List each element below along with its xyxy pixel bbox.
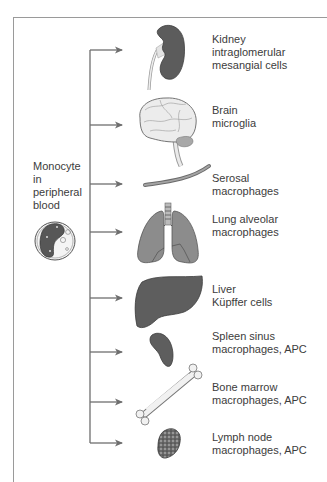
label-line: microglia	[212, 117, 256, 130]
label-line: Bone marrow	[212, 381, 307, 394]
label-line: Liver	[212, 283, 272, 296]
label-lymph-node: Lymph node macrophages, APC	[212, 431, 307, 457]
monocyte-cell-icon	[35, 222, 75, 260]
source-line: blood	[33, 199, 82, 212]
label-line: Lymph node	[212, 431, 307, 444]
branch-connector	[90, 50, 122, 443]
bone-icon	[136, 364, 202, 425]
label-line: Kidney	[212, 33, 287, 46]
label-bone-marrow: Bone marrow macrophages, APC	[212, 381, 307, 407]
label-lung: Lung alveolar macrophages	[212, 213, 279, 239]
source-line: peripheral	[33, 186, 82, 199]
label-line: macrophages, APC	[212, 343, 307, 356]
label-line: Lung alveolar	[212, 213, 279, 226]
liver-icon	[135, 276, 202, 328]
source-line: Monocyte	[33, 160, 82, 173]
label-line: Serosal	[212, 172, 279, 185]
label-line: macrophages, APC	[212, 444, 307, 457]
label-liver: Liver Küpffer cells	[212, 283, 272, 309]
kidney-icon	[149, 25, 185, 90]
label-line: mesangial cells	[212, 59, 287, 72]
lungs-icon	[138, 203, 199, 263]
label-line: macrophages, APC	[212, 394, 307, 407]
source-monocyte-label: Monocyte in peripheral blood	[33, 160, 82, 212]
diagram-canvas	[0, 0, 327, 482]
label-line: Brain	[212, 104, 256, 117]
label-line: macrophages	[212, 185, 279, 198]
spleen-icon	[150, 333, 173, 366]
label-kidney: Kidney intraglomerular mesangial cells	[212, 33, 287, 72]
label-line: Spleen sinus	[212, 330, 307, 343]
label-brain: Brain microglia	[212, 104, 256, 130]
label-line: Küpffer cells	[212, 296, 272, 309]
label-serosa: Serosal macrophages	[212, 172, 279, 198]
source-line: in	[33, 173, 82, 186]
label-line: intraglomerular	[212, 46, 287, 59]
label-line: macrophages	[212, 226, 279, 239]
lymph-node-icon	[158, 429, 181, 458]
brain-icon	[140, 98, 196, 166]
label-spleen: Spleen sinus macrophages, APC	[212, 330, 307, 356]
serosal-tube-icon	[145, 166, 209, 185]
